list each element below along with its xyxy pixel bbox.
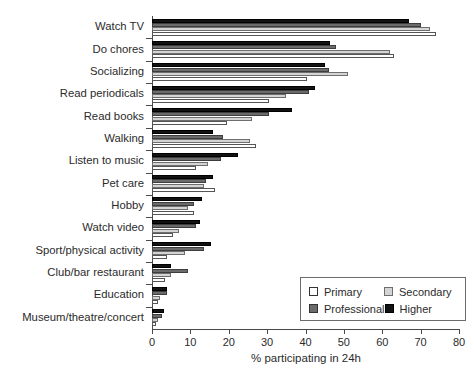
category-label: Museum/theatre/concert — [22, 312, 144, 323]
legend-swatch-secondary-icon — [384, 287, 393, 296]
bar-professional — [152, 135, 223, 139]
x-axis-tick-label: 60 — [376, 336, 388, 348]
bar-secondary — [152, 296, 160, 300]
bar-secondary — [152, 229, 179, 233]
bar-higher — [152, 108, 292, 112]
bar-secondary — [152, 318, 158, 322]
category-label: Sport/physical activity — [35, 245, 144, 256]
x-axis-tick — [152, 329, 153, 334]
x-axis-tick — [190, 329, 191, 334]
bar-primary — [152, 278, 165, 282]
bar-professional — [152, 45, 336, 49]
category-label: Club/bar restaurant — [47, 267, 144, 278]
category-label: Listen to music — [69, 156, 144, 167]
bar-secondary — [152, 206, 188, 210]
bar-professional — [152, 247, 204, 251]
bar-higher — [152, 287, 167, 291]
bar-professional — [152, 112, 269, 116]
legend-label-professional: Professional — [324, 303, 385, 315]
x-axis-tick — [459, 329, 460, 334]
category-label: Pet care — [102, 178, 144, 189]
x-axis-tick — [382, 329, 383, 334]
bar-higher — [152, 41, 330, 45]
bar-primary — [152, 255, 167, 259]
bar-primary — [152, 77, 307, 81]
bar-primary — [152, 233, 173, 237]
x-axis-tick — [306, 329, 307, 334]
x-axis-tick-label: 70 — [415, 336, 427, 348]
x-axis-title: % participating in 24h — [152, 352, 460, 364]
bar-higher — [152, 242, 211, 246]
category-label: Read periodicals — [60, 89, 144, 100]
bar-professional — [152, 68, 329, 72]
bar-primary — [152, 99, 269, 103]
x-axis-tick-label: 0 — [149, 336, 155, 348]
bar-professional — [152, 90, 309, 94]
bar-primary — [152, 322, 156, 326]
x-axis-tick-label: 10 — [184, 336, 196, 348]
bar-secondary — [152, 117, 252, 121]
bar-higher — [152, 197, 202, 201]
bar-primary — [152, 121, 227, 125]
legend-label-higher: Higher — [400, 303, 432, 315]
category-label: Read books — [84, 111, 144, 122]
bar-higher — [152, 309, 164, 313]
bar-secondary — [152, 184, 204, 188]
bar-higher — [152, 63, 325, 67]
x-axis-tick — [267, 329, 268, 334]
bar-higher — [152, 264, 171, 268]
legend-swatch-professional-icon — [309, 304, 318, 313]
bar-professional — [152, 291, 167, 295]
bar-professional — [152, 269, 188, 273]
bar-primary — [152, 300, 158, 304]
category-label: Hobby — [111, 200, 144, 211]
bar-primary — [152, 54, 394, 58]
bar-secondary — [152, 162, 208, 166]
bar-higher — [152, 153, 238, 157]
legend-label-primary: Primary — [324, 286, 362, 298]
bar-primary — [152, 188, 215, 192]
x-axis-tick-label: 50 — [338, 336, 350, 348]
x-axis-tick — [421, 329, 422, 334]
x-axis-tick-label: 80 — [453, 336, 465, 348]
category-axis-labels: Watch TVDo choresSocializingRead periodi… — [0, 0, 144, 381]
bar-higher — [152, 86, 315, 90]
legend-entry-higher: Higher — [385, 303, 459, 315]
bar-higher — [152, 19, 409, 23]
bar-higher — [152, 220, 200, 224]
bar-primary — [152, 211, 194, 215]
bar-professional — [152, 202, 194, 206]
bar-primary — [152, 32, 436, 36]
bar-secondary — [152, 72, 348, 76]
category-label: Watch video — [82, 223, 144, 234]
category-label: Walking — [104, 133, 144, 144]
category-label: Education — [94, 290, 144, 301]
bar-secondary — [152, 27, 430, 31]
bar-professional — [152, 23, 421, 27]
bar-secondary — [152, 94, 286, 98]
bar-higher — [152, 175, 213, 179]
bar-primary — [152, 144, 256, 148]
bar-higher — [152, 130, 213, 134]
legend-swatch-primary-icon — [309, 287, 318, 296]
x-axis-tick-label: 40 — [299, 336, 311, 348]
legend-swatch-higher-icon — [385, 304, 394, 313]
bar-secondary — [152, 139, 250, 143]
bar-secondary — [152, 50, 390, 54]
bar-chart: Watch TVDo choresSocializingRead periodi… — [0, 0, 474, 381]
chart-legend: Primary Secondary Professional Higher — [300, 277, 466, 321]
legend-entry-secondary: Secondary — [384, 286, 459, 298]
legend-label-secondary: Secondary — [399, 286, 452, 298]
bar-primary — [152, 166, 196, 170]
legend-row: Primary Secondary — [309, 283, 459, 300]
bar-professional — [152, 179, 206, 183]
x-axis-tick-label: 20 — [223, 336, 235, 348]
legend-row: Professional Higher — [309, 300, 459, 317]
x-axis-tick — [344, 329, 345, 334]
category-label: Do chores — [93, 44, 145, 55]
bar-professional — [152, 157, 221, 161]
category-label: Socializing — [90, 66, 144, 77]
legend-entry-professional: Professional — [309, 303, 385, 315]
bar-professional — [152, 314, 162, 318]
bar-secondary — [152, 273, 171, 277]
